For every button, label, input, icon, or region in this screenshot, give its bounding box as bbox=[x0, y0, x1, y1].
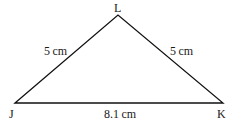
vertex-label-J: J bbox=[9, 107, 14, 121]
vertex-label-K: K bbox=[217, 107, 226, 121]
triangle-JKL bbox=[15, 15, 223, 103]
side-label-JL: 5 cm bbox=[44, 44, 68, 58]
vertex-label-L: L bbox=[114, 1, 121, 15]
side-label-JK: 8.1 cm bbox=[104, 107, 137, 121]
side-label-LK: 5 cm bbox=[170, 44, 194, 58]
triangle-diagram: L J K 5 cm 5 cm 8.1 cm bbox=[0, 0, 238, 129]
